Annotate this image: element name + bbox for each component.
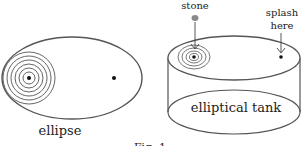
figure-caption: Fig. 1 [134, 141, 166, 146]
splash-label-line2: here [270, 20, 293, 31]
ellipse-label: ellipse [39, 123, 82, 138]
splash-dot-left [192, 55, 196, 59]
tank-diagram: stone splash here elliptical tank [168, 0, 300, 134]
focus-dot-left [27, 76, 31, 80]
stone-icon [192, 15, 199, 21]
splash-dot-right [279, 55, 283, 59]
stone-label: stone [181, 0, 209, 11]
splash-label-line1: splash [266, 7, 299, 18]
focus-dot-right [112, 76, 116, 80]
figure-canvas: ellipse stone splash here elliptical tan… [0, 0, 303, 146]
ellipse-diagram: ellipse [2, 37, 142, 138]
tank-label: elliptical tank [191, 100, 282, 115]
